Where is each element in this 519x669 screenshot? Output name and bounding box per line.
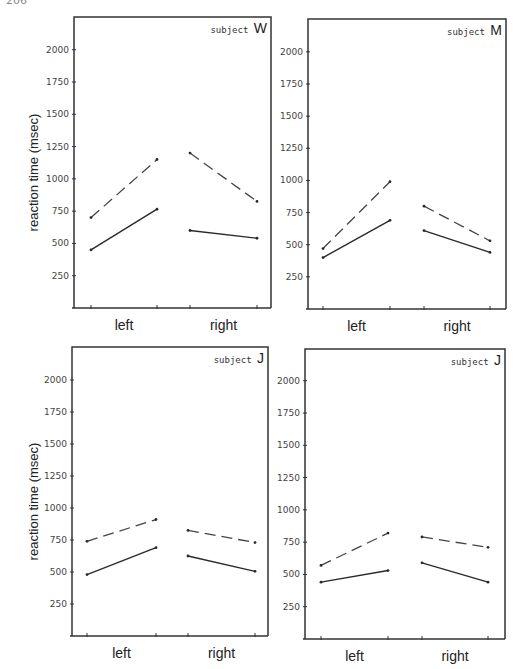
y-tick-label: 1750: [280, 79, 303, 89]
solid-series-line: [422, 563, 488, 582]
y-tick-label: 1250: [44, 471, 67, 481]
plot-frame: [308, 19, 506, 309]
data-point: [86, 540, 89, 543]
y-tick-label: 1750: [44, 407, 67, 417]
data-point: [489, 251, 492, 254]
y-tick-label: 750: [50, 535, 67, 545]
data-point: [189, 229, 192, 232]
dashed-series-line: [321, 533, 388, 565]
panel-subject-j-left: 25050075010001250150017502000leftrightre…: [26, 347, 268, 661]
plot-frame: [72, 347, 268, 636]
solid-series-line: [188, 556, 255, 571]
data-point: [187, 555, 190, 558]
solid-series-line: [323, 220, 390, 257]
y-tick-label: 1000: [44, 503, 67, 513]
y-tick-label: 500: [52, 238, 69, 248]
category-label-left: left: [115, 317, 134, 333]
solid-series-line: [321, 571, 388, 583]
y-tick-label: 250: [283, 602, 300, 612]
y-tick-label: 2000: [46, 45, 69, 55]
y-axis-label: reaction time (msec): [26, 443, 41, 561]
data-point: [421, 536, 424, 539]
y-tick-label: 750: [52, 206, 69, 216]
data-point: [320, 564, 323, 567]
data-point: [254, 570, 257, 573]
data-point: [421, 561, 424, 564]
data-point: [489, 239, 492, 242]
y-tick-label: 1250: [280, 143, 303, 153]
data-point: [423, 205, 426, 208]
y-tick-label: 1250: [46, 142, 69, 152]
category-label-right: right: [210, 317, 237, 333]
dashed-series-line: [87, 520, 156, 542]
data-point: [487, 581, 490, 584]
data-point: [389, 219, 392, 222]
dashed-series-line: [422, 537, 488, 547]
data-point: [254, 541, 257, 544]
data-point: [320, 581, 323, 584]
solid-series-line: [424, 231, 490, 253]
y-tick-label: 250: [52, 271, 69, 281]
category-label-left: left: [112, 645, 131, 661]
category-label-left: left: [345, 648, 364, 664]
y-tick-label: 750: [283, 537, 300, 547]
solid-series-line: [91, 209, 157, 250]
solid-series-line: [87, 548, 156, 575]
data-point: [256, 200, 259, 203]
y-tick-label: 2000: [44, 375, 67, 385]
y-tick-label: 1750: [46, 77, 69, 87]
data-point: [189, 152, 192, 155]
y-tick-label: 250: [50, 599, 67, 609]
category-label-right: right: [441, 648, 468, 664]
y-tick-label: 1250: [277, 473, 300, 483]
data-point: [156, 208, 159, 211]
y-tick-label: 2000: [280, 47, 303, 57]
y-tick-label: 250: [286, 272, 303, 282]
category-label-right: right: [443, 318, 470, 334]
y-tick-label: 500: [50, 567, 67, 577]
category-label-left: left: [347, 318, 366, 334]
y-tick-label: 1500: [46, 109, 69, 119]
y-tick-label: 1500: [44, 439, 67, 449]
plot-frame: [74, 17, 271, 308]
data-point: [86, 573, 89, 576]
data-point: [155, 546, 158, 549]
data-point: [256, 237, 259, 240]
data-point: [187, 529, 190, 532]
data-point: [322, 247, 325, 250]
dashed-series-line: [190, 153, 257, 201]
data-point: [387, 532, 390, 535]
panel-subject-j-right: 25050075010001250150017502000leftrightsu…: [277, 349, 505, 664]
panel-subject-m: 25050075010001250150017502000leftrightsu…: [280, 19, 506, 334]
dashed-series-line: [424, 206, 490, 241]
panel-subject-w: 25050075010001250150017502000leftrightre…: [26, 17, 271, 333]
data-point: [155, 518, 158, 521]
plot-frame: [305, 349, 505, 639]
y-tick-label: 750: [286, 208, 303, 218]
data-point: [322, 256, 325, 259]
subject-label: subject J: [451, 352, 501, 368]
data-point: [90, 248, 93, 251]
y-tick-label: 1000: [280, 175, 303, 185]
y-tick-label: 1500: [280, 111, 303, 121]
subject-label: subject J: [214, 350, 264, 366]
figure-four-panel-reaction-time: 25050075010001250150017502000leftrightre…: [0, 0, 519, 669]
y-tick-label: 500: [283, 569, 300, 579]
category-label-right: right: [208, 645, 235, 661]
data-point: [389, 180, 392, 183]
data-point: [90, 216, 93, 219]
data-point: [156, 158, 159, 161]
subject-label: subject W: [210, 20, 267, 36]
dashed-series-line: [91, 159, 157, 217]
y-tick-label: 1000: [46, 174, 69, 184]
y-axis-label: reaction time (msec): [26, 114, 41, 232]
data-point: [487, 546, 490, 549]
y-tick-label: 1750: [277, 408, 300, 418]
subject-label: subject M: [447, 22, 502, 38]
y-tick-label: 1500: [277, 440, 300, 450]
solid-series-line: [190, 231, 257, 239]
y-tick-label: 500: [286, 240, 303, 250]
data-point: [387, 569, 390, 572]
y-tick-label: 2000: [277, 376, 300, 386]
data-point: [423, 229, 426, 232]
